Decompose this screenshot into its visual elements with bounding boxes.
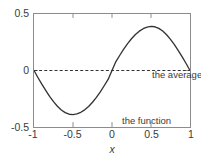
x-axis-tick-label-0.5: 0.5 [144, 129, 159, 140]
y-axis-tick-label-0: 0 [23, 65, 29, 76]
x-axis-tick-label-0: 0 [109, 129, 115, 140]
y-axis-tick-label-minus-0.5: -0.5 [11, 122, 29, 133]
plot-area: the average the function [33, 13, 191, 128]
y-axis-tick-label-0.5: 0.5 [14, 8, 29, 19]
chart-figure: 0.5 0 -0.5 [0, 0, 201, 158]
annotation-the-average: the average [152, 70, 201, 80]
x-axis-ticks-top [73, 14, 151, 18]
annotation-the-function: the function [122, 116, 171, 126]
x-axis-tick-label-minus-1: -1 [28, 129, 37, 140]
x-axis-tick-label-minus-0.5: -0.5 [63, 129, 81, 140]
x-axis-tick-label-1: 1 [188, 129, 194, 140]
x-axis-label: x [109, 143, 114, 155]
